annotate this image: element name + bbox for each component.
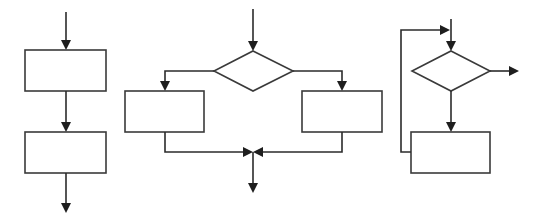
sequence-structure — [25, 12, 106, 213]
loop-decision-diamond — [412, 51, 490, 91]
loop-exit-arrow — [490, 66, 519, 76]
sequence-entry-arrow — [61, 12, 71, 50]
arrowhead-left-icon — [253, 147, 263, 157]
selection-left-branch — [160, 71, 214, 91]
arrowhead-down-icon — [446, 41, 456, 51]
selection-process-box-right — [302, 91, 382, 132]
selection-merge-right — [253, 132, 342, 157]
selection-process-box-left — [125, 91, 204, 132]
selection-decision-diamond — [214, 51, 293, 91]
arrowhead-down-icon — [160, 81, 170, 91]
sequence-exit-arrow — [61, 173, 71, 213]
arrowhead-down-icon — [61, 122, 71, 132]
selection-exit-arrow — [248, 152, 258, 193]
loop-entry-arrow — [446, 19, 456, 51]
arrowhead-right-icon — [243, 147, 253, 157]
loop-body-arrow — [446, 91, 456, 132]
arrowhead-down-icon — [337, 81, 347, 91]
loop-process-box — [411, 132, 490, 173]
selection-structure — [125, 9, 382, 193]
arrowhead-down-icon — [61, 203, 71, 213]
loop-structure — [401, 19, 519, 173]
arrowhead-down-icon — [248, 183, 258, 193]
arrowhead-right-icon — [440, 25, 450, 35]
arrowhead-right-icon — [509, 66, 519, 76]
arrowhead-down-icon — [61, 40, 71, 50]
arrowhead-down-icon — [446, 122, 456, 132]
sequence-process-box-2 — [25, 132, 106, 173]
sequence-connector-arrow — [61, 91, 71, 132]
arrowhead-down-icon — [248, 41, 258, 51]
selection-entry-arrow — [248, 9, 258, 51]
selection-merge-left — [165, 132, 253, 157]
selection-right-branch — [293, 71, 347, 91]
flowchart-diagram — [0, 0, 541, 223]
sequence-process-box-1 — [25, 50, 106, 91]
